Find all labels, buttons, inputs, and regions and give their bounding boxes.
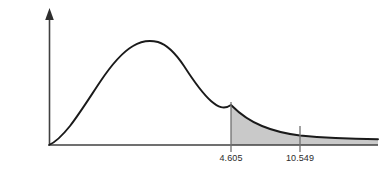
distribution-chart (0, 0, 383, 175)
density-curve (49, 41, 378, 145)
tick-label-4605: 4.605 (219, 153, 242, 163)
y-axis-arrow-icon (45, 8, 54, 20)
chart-figure: 4.605 10.549 (0, 0, 383, 175)
tick-label-10549: 10.549 (286, 153, 314, 163)
